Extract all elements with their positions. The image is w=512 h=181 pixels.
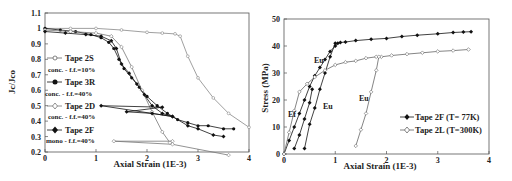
legend-item-tape-2f-77k: Tape 2F (T= 77K): [400, 112, 480, 122]
x-tick-label: 0: [43, 154, 47, 163]
right-y-axis-label: Stress (MPa): [260, 63, 270, 113]
legend-label: Tape 2F: [65, 125, 94, 135]
y-tick-label: 50: [272, 15, 280, 24]
y-tick-label: 0: [276, 150, 280, 159]
right-y-axis-ticks: 01020304050: [272, 15, 287, 159]
y-tick-label: 10: [272, 123, 280, 132]
filled-circle-marker-icon: [53, 80, 58, 85]
legend-label: Tape 2S: [65, 53, 94, 63]
legend-item-tape-3r: Tape 3R conc. - f.f.=40%: [45, 77, 96, 98]
legend-sublabel: conc. - f.f.=40%: [45, 90, 92, 98]
x-tick-label: 4: [487, 156, 491, 165]
open-diamond-marker-icon: [405, 127, 410, 133]
legend-item-tape-2s: Tape 2S conc. - f.f.=10%: [47, 53, 95, 74]
figure: 0.20.30.40.50.60.70.80.911.1 01234 Jc/Jc…: [0, 0, 512, 181]
open-diamond-marker-icon: [53, 103, 58, 109]
left-x-axis-label: Axial Strain (1E-3): [114, 159, 187, 169]
y-tick-label: 0.8: [31, 55, 41, 64]
x-tick-label: 4: [247, 154, 251, 163]
y-tick-label: 40: [272, 42, 280, 51]
y-tick-label: 0.2: [31, 148, 41, 157]
legend-label: Tape 2F (T= 77K): [415, 112, 480, 122]
y-tick-label: 0.9: [31, 40, 41, 49]
open-circle-marker-icon: [53, 56, 57, 60]
y-tick-label: 0.5: [31, 102, 41, 111]
y-tick-label: 0.6: [31, 86, 41, 95]
right-legend: Tape 2F (T= 77K) Tape 2L (T=300K): [400, 112, 482, 135]
legend-item-tape-2f: Tape 2F mono - f.f.=40%: [46, 125, 95, 145]
y-tick-label: 30: [272, 69, 280, 78]
right-series: [282, 30, 473, 156]
y-tick-label: 1.1: [31, 9, 41, 18]
x-tick-label: 3: [436, 156, 440, 165]
x-tick-label: 1: [333, 156, 337, 165]
left-legend: Tape 2S conc. - f.f.=10% Tape 3R conc. -…: [45, 53, 96, 145]
legend-item-tape-2l-300k: Tape 2L (T=300K): [400, 125, 482, 135]
legend-label: Tape 2D: [65, 101, 95, 111]
annotation-ef: Ef: [288, 110, 296, 119]
legend-sublabel: conc. - f.f.=40%: [48, 113, 95, 121]
legend-item-tape-2d: Tape 2D conc. - f.f.=40%: [47, 101, 95, 121]
y-tick-label: 0.4: [31, 117, 41, 126]
annotation-eu-1: Eu: [314, 56, 324, 65]
y-tick-label: 1: [37, 24, 41, 33]
legend-label: Tape 3R: [65, 77, 96, 87]
annotation-eu-2: Eu: [323, 102, 333, 111]
legend-label: Tape 2L (T=300K): [415, 125, 482, 135]
y-tick-label: 0.7: [31, 71, 41, 80]
left-y-axis-label: Jc/Jco: [7, 70, 17, 94]
left-chart: 0.20.30.40.50.60.70.80.911.1 01234 Jc/Jc…: [7, 9, 251, 169]
filled-diamond-marker-icon: [405, 114, 410, 120]
filled-diamond-marker-icon: [52, 127, 58, 134]
x-tick-label: 1: [94, 154, 98, 163]
legend-sublabel: mono - f.f.=40%: [46, 137, 95, 145]
series-tape-2f-t-77k-: [282, 30, 473, 156]
y-tick-label: 20: [272, 96, 280, 105]
y-tick-label: 0.3: [31, 133, 41, 142]
annotation-eu-3: Eu: [359, 94, 369, 103]
legend-sublabel: conc. - f.f.=10%: [48, 66, 95, 74]
right-chart: 01020304050 01234 Stress (MPa) Axial Str…: [260, 15, 491, 171]
x-tick-label: 0: [282, 156, 286, 165]
right-x-axis-label: Axial Strain (1E-3): [344, 161, 417, 171]
chart-canvas: 0.20.30.40.50.60.70.80.911.1 01234 Jc/Jc…: [0, 0, 512, 181]
x-tick-label: 3: [196, 154, 200, 163]
